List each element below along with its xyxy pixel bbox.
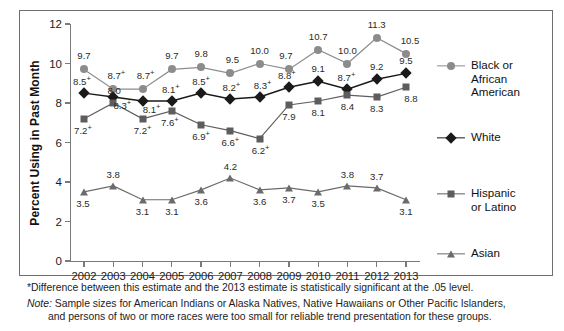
data-point-marker bbox=[403, 84, 410, 91]
significance-marker: + bbox=[121, 68, 125, 77]
data-point-marker bbox=[315, 98, 322, 105]
data-point-label: 8.1+ bbox=[162, 85, 180, 95]
data-point-label: 9.1 bbox=[312, 64, 325, 74]
data-point-label: 9.7 bbox=[77, 52, 90, 62]
data-point-label: 3.1 bbox=[165, 207, 178, 217]
significance-marker: + bbox=[150, 68, 154, 77]
significance-marker: + bbox=[86, 74, 90, 83]
data-point-marker bbox=[373, 94, 380, 101]
significance-marker: + bbox=[351, 70, 355, 79]
significance-marker: + bbox=[156, 102, 160, 111]
legend-symbol bbox=[437, 247, 465, 260]
significance-marker: + bbox=[267, 78, 271, 87]
legend-marker bbox=[447, 250, 455, 257]
x-axis-tick bbox=[318, 262, 319, 267]
data-point-label: 9.7 bbox=[165, 52, 178, 62]
data-point-marker bbox=[139, 115, 146, 122]
data-point-marker bbox=[226, 175, 234, 182]
significance-marker: + bbox=[174, 115, 178, 124]
data-point-label: 9.7 bbox=[279, 52, 292, 62]
series-line bbox=[84, 87, 406, 138]
significance-marker: + bbox=[235, 135, 239, 144]
data-point-label: 3.8 bbox=[341, 170, 354, 180]
data-point-marker bbox=[344, 92, 351, 99]
legend-item-circle[interactable]: Black or AfricanAmerican bbox=[437, 58, 545, 99]
data-point-marker bbox=[139, 85, 147, 93]
data-point-label: 8.1 bbox=[312, 108, 325, 118]
data-point-marker bbox=[139, 196, 147, 203]
significance-marker: + bbox=[87, 123, 91, 132]
data-point-label: 8.7+ bbox=[107, 71, 125, 81]
x-axis-line bbox=[70, 261, 420, 262]
data-point-label: 7.6+ bbox=[161, 118, 179, 128]
data-point-label: 3.7 bbox=[370, 172, 383, 182]
data-point-marker bbox=[80, 65, 88, 73]
significance-marker: + bbox=[291, 68, 295, 77]
data-point-label: 3.7 bbox=[282, 195, 295, 205]
legend-marker bbox=[448, 190, 455, 197]
data-point-label: 8.8 bbox=[404, 94, 417, 104]
data-point-marker bbox=[256, 60, 264, 68]
legend-symbol bbox=[437, 131, 465, 144]
y-axis-tick-label: 12 bbox=[49, 18, 62, 30]
data-point-label: 4.2 bbox=[224, 162, 237, 172]
legend-item-square[interactable]: Hispanicor Latino bbox=[437, 186, 516, 213]
data-point-label: 9.5 bbox=[399, 57, 412, 67]
data-point-label: 3.8 bbox=[107, 170, 120, 180]
legend-label: Asian bbox=[471, 246, 500, 260]
data-point-label: 6.2+ bbox=[252, 146, 270, 156]
series-lines bbox=[70, 24, 420, 261]
footnotes: *Difference between this estimate and th… bbox=[27, 281, 547, 323]
data-point-marker bbox=[343, 182, 351, 189]
data-point-label: 9.8 bbox=[194, 50, 207, 60]
legend-symbol bbox=[437, 187, 465, 200]
series-line bbox=[84, 38, 406, 89]
legend-item-diamond[interactable]: White bbox=[437, 130, 501, 144]
significance-marker: + bbox=[206, 129, 210, 138]
data-point-label: 8.3+ bbox=[254, 81, 272, 91]
data-point-marker bbox=[402, 196, 410, 203]
data-point-label: 3.6 bbox=[253, 197, 266, 207]
data-point-marker bbox=[168, 107, 175, 114]
significance-marker: + bbox=[175, 82, 179, 91]
data-point-label: 3.5 bbox=[76, 199, 89, 209]
data-point-marker bbox=[197, 63, 205, 71]
data-point-label: 8.7+ bbox=[338, 73, 356, 83]
y-axis-tick-label: 0 bbox=[56, 255, 62, 267]
footnote-note: Note: Sample sizes for American Indians … bbox=[27, 297, 547, 323]
significance-marker: + bbox=[147, 123, 151, 132]
data-point-marker bbox=[109, 182, 117, 189]
significance-marker: + bbox=[265, 143, 269, 152]
data-point-marker bbox=[226, 69, 234, 77]
legend-label: Hispanicor Latino bbox=[471, 186, 516, 213]
note-label: Note: bbox=[27, 298, 52, 309]
y-axis-tick-label: 2 bbox=[56, 216, 62, 228]
data-point-label: 8.7+ bbox=[137, 71, 155, 81]
y-axis-tick-label: 10 bbox=[49, 58, 62, 70]
x-axis-tick bbox=[171, 262, 172, 267]
significance-marker: + bbox=[127, 98, 131, 107]
data-point-label: 8.2+ bbox=[222, 83, 240, 93]
legend-marker bbox=[445, 132, 456, 143]
plot-area: 024681012 200220032004200520062007200820… bbox=[70, 24, 420, 261]
significance-marker: + bbox=[206, 74, 210, 83]
x-axis-tick bbox=[376, 262, 377, 267]
data-point-label: 3.5 bbox=[312, 199, 325, 209]
note-line1: Sample sizes for American Indians or Ala… bbox=[52, 298, 506, 309]
data-point-marker bbox=[285, 101, 292, 108]
y-axis-tick-label: 4 bbox=[56, 176, 62, 188]
x-axis-tick bbox=[347, 262, 348, 267]
y-axis-tick-label: 6 bbox=[56, 137, 62, 149]
data-point-label: 6.9+ bbox=[192, 132, 210, 142]
data-point-marker bbox=[227, 127, 234, 134]
data-point-label: 8.4 bbox=[341, 102, 354, 112]
data-point-marker bbox=[168, 196, 176, 203]
y-axis-tick-label: 8 bbox=[56, 97, 62, 109]
data-point-label: 10.5 bbox=[401, 36, 420, 46]
data-point-marker bbox=[373, 34, 381, 42]
data-point-marker bbox=[314, 46, 322, 54]
data-point-label: 8.8+ bbox=[278, 71, 296, 81]
data-point-label: 3.1 bbox=[399, 207, 412, 217]
legend-item-triangle[interactable]: Asian bbox=[437, 246, 500, 260]
note-line2: and persons of two or more races were to… bbox=[27, 310, 547, 323]
